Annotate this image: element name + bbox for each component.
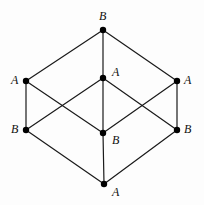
vertex-label-right-lower: B <box>184 123 191 135</box>
graph-vertex-left-lower <box>23 127 29 133</box>
graph-edge-left-lower-to-center-upper <box>26 78 103 130</box>
vertex-label-top: B <box>99 10 106 22</box>
graph-vertex-left-upper <box>23 78 29 84</box>
vertex-label-center-upper: A <box>112 66 119 78</box>
vertex-label-left-upper: A <box>11 74 18 86</box>
graph-edge-top-to-left-upper <box>26 30 103 81</box>
graph-vertex-bottom <box>101 181 107 187</box>
graph-canvas <box>0 0 204 205</box>
graph-vertex-center-upper <box>100 75 106 81</box>
graph-vertex-right-lower <box>174 127 180 133</box>
graph-edge-bottom-to-left-lower <box>26 130 104 184</box>
vertex-label-right-upper: A <box>184 74 191 86</box>
graph-figure: BAAABBBA <box>0 0 204 205</box>
vertex-layer <box>23 27 180 187</box>
graph-vertex-top <box>100 27 106 33</box>
graph-edge-bottom-to-center-lower <box>103 133 104 184</box>
graph-vertex-center-lower <box>100 130 106 136</box>
graph-edge-center-upper-to-right-lower <box>103 78 177 130</box>
graph-edge-left-upper-to-center-lower <box>26 81 103 133</box>
vertex-label-bottom: A <box>112 186 119 198</box>
vertex-label-left-lower: B <box>11 123 18 135</box>
vertex-label-center-lower: B <box>112 134 119 146</box>
edge-layer <box>26 30 177 184</box>
graph-vertex-right-upper <box>174 78 180 84</box>
graph-edge-center-lower-to-right-upper <box>103 81 177 133</box>
